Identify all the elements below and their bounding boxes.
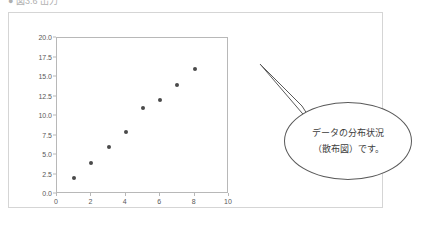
callout-line-2: （散布図）です。 — [313, 143, 384, 156]
y-tick-mark — [53, 115, 56, 116]
data-point — [72, 176, 76, 180]
x-tick-label: 2 — [88, 198, 92, 205]
y-axis-labels: 0.02.55.07.510.012.515.017.520.0 — [22, 37, 52, 193]
data-point — [124, 130, 128, 134]
x-tick-mark — [159, 193, 160, 196]
y-tick-label: 7.5 — [42, 131, 52, 138]
x-tick-mark — [194, 193, 195, 196]
y-tick-mark — [53, 154, 56, 155]
plot-points-layer — [57, 38, 227, 192]
data-point — [89, 161, 93, 165]
y-tick-mark — [53, 56, 56, 57]
x-tick-label: 4 — [123, 198, 127, 205]
x-axis-labels: 0246810 — [56, 195, 228, 209]
callout-text: データの分布状況 （散布図）です。 — [284, 102, 412, 180]
x-tick-label: 6 — [157, 198, 161, 205]
data-point — [193, 67, 197, 71]
scatter-chart: 0.02.55.07.510.012.515.017.520.0 0246810… — [0, 0, 383, 208]
y-tick-label: 2.5 — [42, 170, 52, 177]
y-tick-mark — [53, 134, 56, 135]
x-tick-label: 0 — [54, 198, 58, 205]
x-tick-mark — [125, 193, 126, 196]
y-tick-mark — [53, 95, 56, 96]
y-tick-mark — [53, 173, 56, 174]
y-tick-label: 12.5 — [38, 92, 52, 99]
x-tick-label: 8 — [192, 198, 196, 205]
y-tick-label: 0.0 — [42, 190, 52, 197]
callout-line-1: データの分布状況 — [312, 127, 384, 140]
y-tick-label: 5.0 — [42, 151, 52, 158]
y-tick-mark — [53, 37, 56, 38]
y-tick-label: 20.0 — [38, 34, 52, 41]
y-tick-mark — [53, 76, 56, 77]
callout-bubble: データの分布状況 （散布図）です。 — [258, 62, 414, 184]
plot-area — [56, 37, 228, 193]
data-point — [141, 106, 145, 110]
x-tick-label: 10 — [224, 198, 232, 205]
y-tick-label: 10.0 — [38, 112, 52, 119]
y-tick-label: 15.0 — [38, 73, 52, 80]
data-point — [107, 145, 111, 149]
x-tick-mark — [90, 193, 91, 196]
x-tick-mark — [56, 193, 57, 196]
data-point — [158, 98, 162, 102]
data-point — [175, 83, 179, 87]
y-tick-label: 17.5 — [38, 53, 52, 60]
x-tick-mark — [228, 193, 229, 196]
